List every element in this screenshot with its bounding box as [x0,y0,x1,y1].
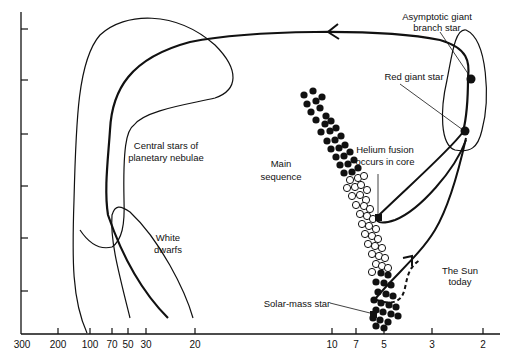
central-stars-label-line2: planetary nebulae [128,152,204,163]
main-sequence-star-filled [332,124,339,131]
solar-mass-pointer-line [330,303,370,313]
main-sequence-star-filled [317,128,324,135]
white-dwarfs-label-line2: dwarfs [154,244,182,255]
x-axis-tick-label: 30 [140,339,152,350]
x-axis-tick-label: 100 [82,339,99,350]
main-sequence-star-filled [372,322,379,329]
main-sequence-star-filled [382,290,389,297]
main-sequence-star-hollow [368,268,375,275]
solar-mass-star-marker [370,311,377,318]
agb-label-line2: branch star [413,22,461,33]
main-sequence-star-filled [300,91,307,98]
main-sequence-star-filled [318,93,325,100]
main-sequence-star-filled [307,108,314,115]
main-sequence-star-filled [312,116,319,123]
main-sequence-star-filled [385,301,392,308]
y-axis-ticks [21,29,28,291]
main-sequence-star-filled [337,132,344,139]
main-sequence-star-filled [394,312,401,319]
main-sequence-star-hollow [352,201,359,208]
red-giant-label: Red giant star [384,71,443,82]
x-axis-tick-label: 5 [381,339,387,350]
main-sequence-star-hollow [365,222,372,229]
main-sequence-star-filled [389,292,396,299]
hr-diagram: 30020010070503020107532 Asymptotic giant… [0,0,510,360]
red-giant-star-marker [461,127,470,136]
x-axis-tick-label: 7 [353,339,359,350]
labels: Asymptotic giant branch star Red giant s… [128,11,478,309]
main-sequence-star-hollow [378,244,385,251]
main-sequence-star-filled [392,303,399,310]
main-sequence-star-filled [341,141,348,148]
main-sequence-star-filled [376,316,383,323]
solar-mass-star-label: Solar-mass star [264,298,331,309]
main-sequence-star-filled [316,104,323,111]
main-sequence-label-line1: Main [271,158,292,169]
main-sequence-star-filled [380,279,387,286]
main-sequence-star-filled [309,87,316,94]
x-axis-tick-label: 2 [480,339,486,350]
main-sequence-star-hollow [356,191,363,198]
main-sequence-star-filled [340,169,347,176]
red-giant-pointer-line [400,84,463,130]
main-sequence-star-filled [384,318,391,325]
x-axis-tick-label: 50 [122,339,134,350]
main-sequence-star-filled [387,310,394,317]
helium-fusion-marker [375,214,382,221]
x-axis-tick-label: 300 [14,339,31,350]
main-sequence-star-hollow [357,181,364,188]
main-sequence-star-filled [340,152,347,159]
central-stars-label-line1: Central stars of [134,140,199,151]
main-sequence-star-filled [327,145,334,152]
main-sequence-star-hollow [372,225,379,232]
main-sequence-star-hollow [371,242,378,249]
x-axis-tick-label: 3 [429,339,435,350]
x-axis-tick-label: 10 [326,339,338,350]
main-sequence-star-filled [348,168,355,175]
main-sequence-star-filled [303,100,310,107]
x-axis-tick-label: 70 [106,339,118,350]
main-sequence-star-filled [370,296,377,303]
main-sequence-star-filled [312,97,319,104]
main-sequence-star-filled [377,269,384,276]
x-axis-ticks: 30020010070503020107532 [14,328,487,350]
main-sequence-star-filled [332,153,339,160]
main-sequence-star-hollow [358,220,365,227]
main-sequence-star-hollow [363,186,370,193]
sun-today-label-line2: today [448,276,471,287]
main-sequence-star-hollow [384,264,391,271]
helium-label-line1: Helium fusion [356,144,414,155]
main-sequence-label-line2: sequence [260,171,301,182]
agb-star-marker [467,75,476,84]
main-sequence-star-filled [374,288,381,295]
main-sequence-star-filled [377,299,384,306]
x-axis-tick-label: 20 [189,339,201,350]
main-sequence-star-filled [344,160,351,167]
agb-label-line1: Asymptotic giant [402,11,472,22]
main-sequence-star-filled [336,161,343,168]
agb-pointer-line [440,32,471,78]
main-sequence-star-hollow [360,172,367,179]
main-sequence-star-filled [346,148,353,155]
main-sequence-dots [300,87,401,331]
main-sequence-star-filled [380,324,387,331]
evolution-track-rgb-to-agb [463,78,468,132]
main-sequence-star-filled [379,308,386,315]
main-sequence-star-hollow [374,235,381,242]
main-sequence-star-hollow [356,210,363,217]
main-sequence-star-hollow [343,184,350,191]
main-sequence-star-hollow [348,192,355,199]
main-sequence-star-filled [387,281,394,288]
main-sequence-star-hollow [361,230,368,237]
main-sequence-star-filled [372,278,379,285]
main-sequence-star-filled [323,137,330,144]
main-sequence-star-filled [384,271,391,278]
main-sequence-star-filled [331,136,338,143]
central-stars-region-outline [73,18,233,333]
main-sequence-star-hollow [381,254,388,261]
x-axis-tick-label: 200 [50,339,67,350]
white-dwarfs-label-line1: White [156,232,180,243]
main-sequence-star-hollow [368,250,375,257]
main-sequence-star-filled [327,117,334,124]
main-sequence-star-hollow [366,205,373,212]
